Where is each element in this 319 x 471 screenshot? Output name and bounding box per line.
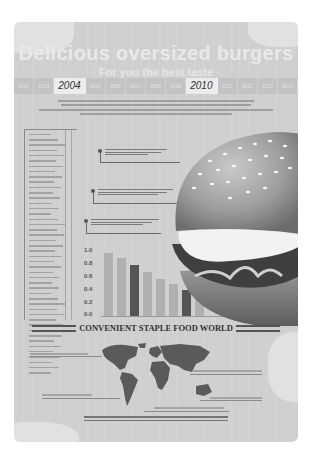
timeline-year-highlighted: 2004 <box>54 78 86 94</box>
list-row <box>29 150 57 152</box>
timeline-year: 2013 <box>258 78 278 94</box>
list-row <box>29 335 62 337</box>
list-row <box>29 293 51 295</box>
timeline-year: 2014 <box>278 78 298 94</box>
timeline-year: 2011 <box>218 78 238 94</box>
list-row <box>29 166 63 168</box>
timeline-year-highlighted: 2010 <box>186 78 218 94</box>
y-tick: 1.0 <box>84 247 92 253</box>
list-row <box>29 314 64 316</box>
map-callout <box>154 407 224 409</box>
callout-text <box>98 188 173 197</box>
timeline-year: 2007 <box>126 78 146 94</box>
footer-paragraph <box>84 414 228 423</box>
burger-photo <box>170 126 298 326</box>
timeline-year: 2003 <box>34 78 54 94</box>
list-row <box>29 340 54 342</box>
list-row <box>29 187 61 189</box>
section-banner: CONVENIENT STAPLE FOOD WORLD <box>32 321 280 335</box>
list-row <box>29 139 58 141</box>
timeline-year: 2005 <box>86 78 106 94</box>
map-callout-line <box>190 374 262 375</box>
grunge-texture <box>268 332 298 402</box>
list-divider <box>65 130 66 320</box>
list-row <box>29 240 56 242</box>
y-tick: 0.8 <box>84 260 92 266</box>
list-row <box>29 266 61 268</box>
map-callout-line <box>42 398 120 399</box>
banner-rule-left <box>32 325 76 332</box>
list-row <box>29 367 59 369</box>
chart-bar <box>130 265 139 316</box>
list-row <box>29 250 55 252</box>
infographic-poster: Delicious oversized burgers · For you th… <box>14 22 298 442</box>
callout-leader-line <box>86 223 87 233</box>
y-tick: 0.0 <box>84 311 92 317</box>
timeline-year: 2002 <box>14 78 34 94</box>
timeline: 2002 2003 2004 2005 2006 2007 2008 2009 … <box>14 78 298 94</box>
list-row <box>29 372 51 374</box>
poster-subtitle: · For you the best taste · <box>14 66 298 78</box>
callout-leader-line <box>93 193 94 203</box>
list-row <box>29 134 51 136</box>
y-tick: 0.2 <box>84 299 92 305</box>
list-row <box>29 144 65 146</box>
list-row <box>29 298 58 300</box>
list-row <box>29 256 62 258</box>
timeline-year: 2012 <box>238 78 258 94</box>
list-row <box>29 346 61 348</box>
list-row <box>29 213 51 215</box>
callout-text <box>91 218 159 227</box>
chart-bar <box>117 258 126 316</box>
map-callout-line <box>144 411 229 412</box>
callout-text <box>105 148 167 157</box>
list-divider <box>71 130 72 320</box>
map-callout <box>30 353 88 355</box>
timeline-year: 2009 <box>166 78 186 94</box>
map-callout <box>210 397 262 399</box>
list-row <box>29 208 59 210</box>
chart-bar <box>104 253 113 316</box>
list-row <box>29 171 55 173</box>
list-row <box>29 261 54 263</box>
callout-leader-line <box>100 162 180 163</box>
callout-leader-line <box>100 153 101 162</box>
list-row <box>29 287 59 289</box>
banner-title: CONVENIENT STAPLE FOOD WORLD <box>76 323 236 333</box>
list-row <box>29 282 52 284</box>
timeline-year: 2008 <box>146 78 166 94</box>
list-rows <box>25 134 77 374</box>
list-row <box>29 303 65 305</box>
list-row <box>29 176 62 178</box>
callout-leader-line <box>86 233 161 234</box>
list-row <box>29 160 56 162</box>
list-row <box>29 362 52 364</box>
list-row <box>29 309 57 311</box>
world-map <box>100 342 220 412</box>
list-row <box>29 155 64 157</box>
list-row <box>29 234 64 236</box>
map-callout <box>42 394 92 396</box>
poster-title: Delicious oversized burgers <box>14 42 298 65</box>
map-callout-line <box>30 356 102 357</box>
map-callout-line <box>200 400 262 401</box>
list-row <box>29 203 52 205</box>
list-row <box>29 277 60 279</box>
list-row <box>29 224 65 226</box>
list-row <box>29 181 54 183</box>
list-row <box>29 229 57 231</box>
timeline-year: 2006 <box>106 78 126 94</box>
intro-paragraph <box>34 98 278 117</box>
list-row <box>29 197 60 199</box>
grunge-texture <box>14 422 79 442</box>
y-tick: 0.6 <box>84 273 92 279</box>
banner-rule-right <box>236 325 280 332</box>
chart-bar <box>156 279 165 316</box>
side-data-list <box>24 129 77 320</box>
list-row <box>29 219 58 221</box>
map-callout <box>192 370 262 372</box>
list-row <box>29 272 53 274</box>
list-row <box>29 245 63 247</box>
list-row <box>29 192 53 194</box>
y-tick: 0.4 <box>84 286 92 292</box>
